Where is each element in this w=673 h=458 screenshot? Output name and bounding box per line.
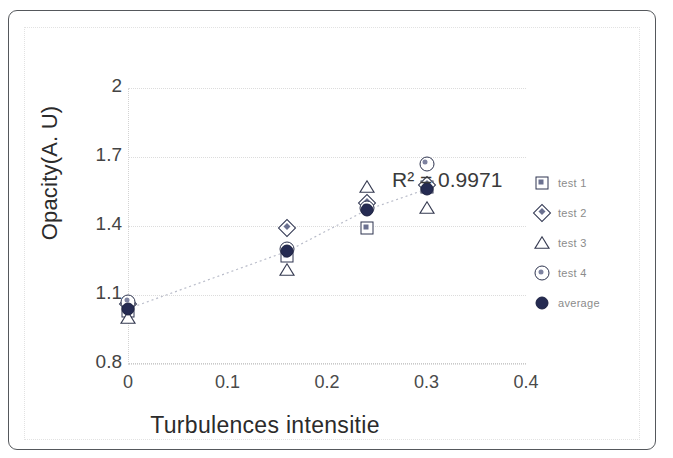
diamond-marker-icon [534,205,550,221]
triangle-marker-icon [534,235,550,251]
x-axis-tick-label: 0.4 [513,372,538,393]
chart-legend: test 1test 2test 3test 4average [534,168,644,318]
circle-marker-icon [534,265,550,281]
figure-canvas: Opacity(A. U) 0.81.11.41.72 R² = 0.9971 … [0,0,673,458]
data-point-test-3 [359,180,375,193]
legend-item-label: test 3 [558,237,587,249]
x-axis-title: Turbulences intensitie [0,412,530,439]
x-axis-tick-label: 0.1 [215,372,240,393]
data-point-average [122,302,135,315]
y-axis-tick-label: 1.4 [96,213,122,235]
x-axis-tick-label: 0 [123,372,133,393]
square-marker-icon [534,175,550,191]
data-point-test-3 [279,263,295,276]
legend-item-test-3[interactable]: test 3 [534,228,644,258]
legend-item-test-2[interactable]: test 2 [534,198,644,228]
legend-item-label: test 2 [558,207,587,219]
data-point-average [281,245,294,258]
x-axis-tick-label: 0.2 [314,372,339,393]
filled-dot-marker-icon [534,295,550,311]
x-axis-tick-labels: 00.10.20.30.4 [0,372,673,398]
gridline [128,364,526,365]
data-series-layer [128,88,526,364]
y-axis-tick-label: 2 [111,75,122,97]
y-axis-tick-label: 1.7 [96,144,122,166]
plot-area [128,88,526,364]
legend-item-label: test 1 [558,177,587,189]
legend-item-label: test 4 [558,267,587,279]
legend-item-test-1[interactable]: test 1 [534,168,644,198]
data-point-test-1 [360,222,373,235]
y-axis-tick-label: 0.8 [96,351,122,373]
y-axis-tick-label: 1.1 [96,282,122,304]
legend-item-label: average [558,297,600,309]
data-point-test-3 [419,200,435,213]
legend-item-test-4[interactable]: test 4 [534,258,644,288]
r-squared-annotation: R² = 0.9971 [392,168,502,192]
x-axis-tick-label: 0.3 [414,372,439,393]
data-point-test-2 [278,219,296,237]
data-point-average [360,203,373,216]
legend-item-average[interactable]: average [534,288,644,318]
